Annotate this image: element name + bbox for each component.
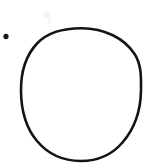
smudge-blob-lower xyxy=(48,17,52,24)
figure-canvas: Hand-drawn circle with adjacent dot xyxy=(0,0,165,168)
dot-marker xyxy=(3,34,8,40)
figure-svg xyxy=(0,0,165,168)
